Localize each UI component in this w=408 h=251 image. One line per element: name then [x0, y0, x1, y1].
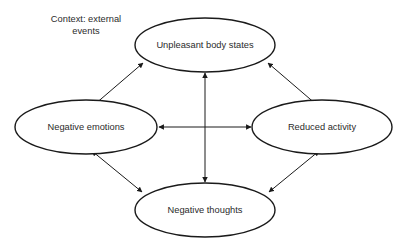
edge-body-emotions	[94, 63, 143, 105]
edge-activity-thoughts	[269, 151, 319, 192]
node-label-reduced-activity: Reduced activity	[288, 122, 357, 132]
node-label-negative-thoughts: Negative thoughts	[168, 205, 243, 215]
context-caption-line-2: events	[72, 26, 100, 36]
node-reduced-activity[interactable]: Reduced activity	[252, 100, 392, 154]
edge-emotions-thoughts	[92, 151, 142, 192]
node-label-unpleasant-body-states: Unpleasant body states	[156, 40, 254, 50]
node-negative-emotions[interactable]: Negative emotions	[15, 100, 157, 154]
diagram-canvas: Unpleasant body states Negative emotions…	[0, 0, 408, 251]
context-caption: Context: external events	[51, 14, 121, 36]
node-negative-thoughts[interactable]: Negative thoughts	[135, 183, 275, 237]
node-unpleasant-body-states[interactable]: Unpleasant body states	[135, 18, 275, 72]
diagram-svg: Unpleasant body states Negative emotions…	[0, 0, 408, 251]
context-caption-line-1: Context: external	[51, 14, 121, 24]
node-label-negative-emotions: Negative emotions	[48, 122, 125, 132]
edge-body-activity	[268, 63, 317, 105]
